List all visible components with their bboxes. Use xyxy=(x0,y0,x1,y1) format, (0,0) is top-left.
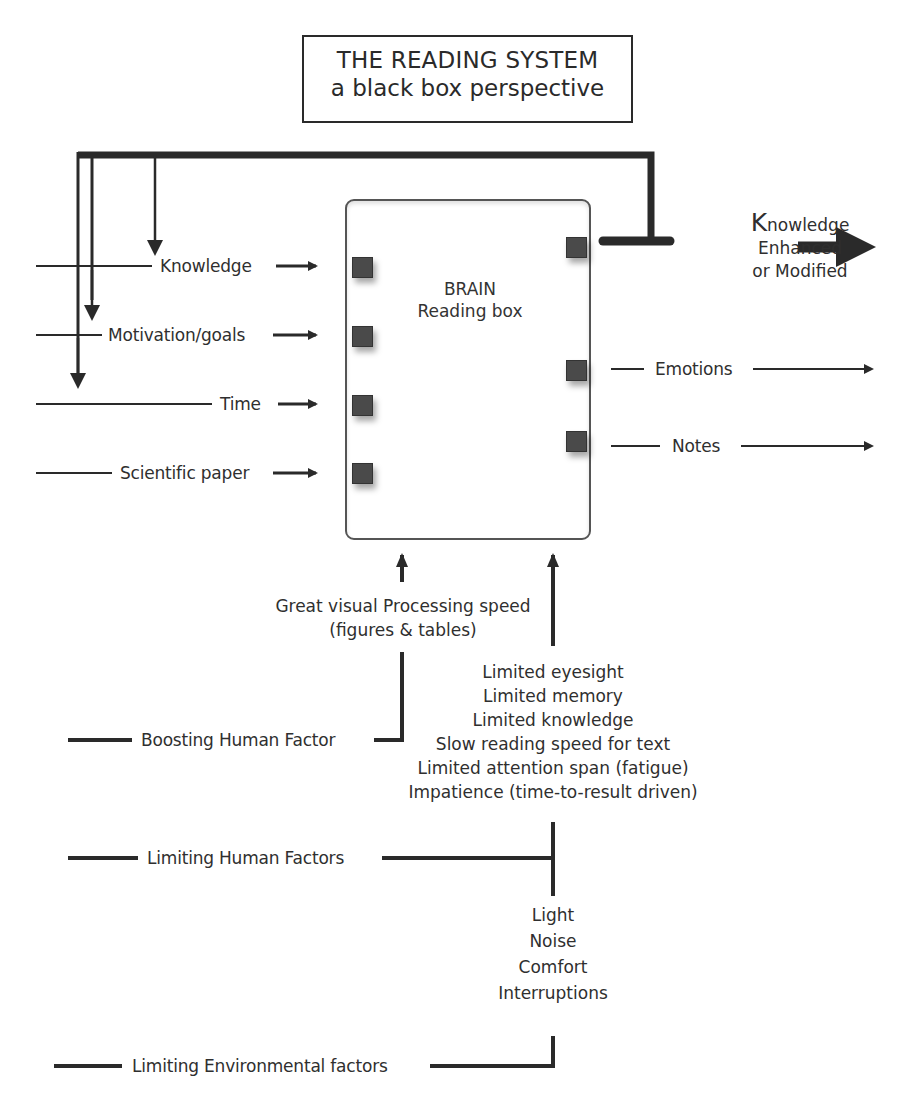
brain-title: BRAIN xyxy=(395,278,545,300)
input-port-knowledge xyxy=(352,257,373,278)
boosting-factor-text: Great visual Processing speed (figures &… xyxy=(240,594,566,642)
knowledge-rest: nowledge xyxy=(767,215,849,235)
brain-label: BRAIN Reading box xyxy=(395,278,545,322)
output-knowledge-label: Knowledge Enhanced or Modified xyxy=(740,211,860,283)
environment-item: Comfort xyxy=(483,954,623,980)
input-label-scientific-paper: Scientific paper xyxy=(120,463,249,483)
limiting-item: Limited knowledge xyxy=(380,708,726,732)
environment-item: Interruptions xyxy=(483,980,623,1006)
environment-item: Noise xyxy=(483,928,623,954)
connector-lines xyxy=(0,0,912,1097)
input-label-motivation: Motivation/goals xyxy=(108,325,245,345)
reading-black-box xyxy=(345,199,591,540)
limiting-human-list: Limited eyesight Limited memory Limited … xyxy=(380,660,726,804)
knowledge-line2: Enhanced xyxy=(740,237,860,260)
boosting-line1: Great visual Processing speed xyxy=(240,594,566,618)
boosting-line2: (figures & tables) xyxy=(240,618,566,642)
output-label-notes: Notes xyxy=(672,436,720,456)
limiting-item: Slow reading speed for text xyxy=(380,732,726,756)
brain-subtitle: Reading box xyxy=(395,300,545,322)
limiting-item: Limited attention span (fatigue) xyxy=(380,756,726,780)
diagram-title-box: THE READING SYSTEM a black box perspecti… xyxy=(302,35,633,123)
output-port-notes xyxy=(566,431,587,452)
limiting-item: Limited memory xyxy=(380,684,726,708)
input-port-motivation xyxy=(352,326,373,347)
knowledge-initial: K xyxy=(751,208,767,237)
diagram-subtitle: a black box perspective xyxy=(304,75,631,101)
knowledge-line3: or Modified xyxy=(740,260,860,283)
limiting-environmental-factors-label: Limiting Environmental factors xyxy=(132,1056,388,1076)
input-port-paper xyxy=(352,463,373,484)
input-label-knowledge: Knowledge xyxy=(160,256,252,276)
output-label-emotions: Emotions xyxy=(655,359,733,379)
limiting-item: Limited eyesight xyxy=(380,660,726,684)
limiting-item: Impatience (time-to-result driven) xyxy=(380,780,726,804)
environment-list: Light Noise Comfort Interruptions xyxy=(483,902,623,1006)
diagram-title: THE READING SYSTEM xyxy=(304,47,631,73)
output-port-knowledge xyxy=(566,237,587,258)
input-port-time xyxy=(352,395,373,416)
boosting-human-factor-label: Boosting Human Factor xyxy=(141,730,335,750)
limiting-human-factors-label: Limiting Human Factors xyxy=(147,848,344,868)
environment-item: Light xyxy=(483,902,623,928)
input-label-time: Time xyxy=(220,394,261,414)
output-port-emotions xyxy=(566,360,587,381)
